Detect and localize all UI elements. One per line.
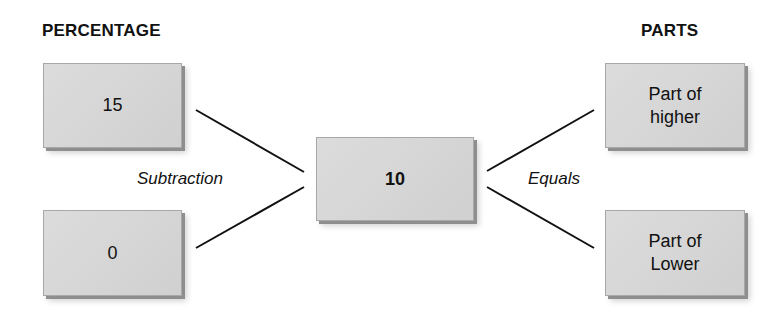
box-line: Lower: [650, 254, 699, 274]
box-percentage-low: 0: [43, 210, 182, 296]
box-value: 15: [102, 94, 122, 117]
equals-label: Equals: [528, 169, 580, 189]
subtraction-label: Subtraction: [137, 169, 223, 189]
box-value: 0: [107, 242, 117, 265]
box-part-lower: Part of Lower: [605, 210, 745, 296]
box-line: Part of: [648, 231, 701, 251]
box-line: higher: [650, 107, 700, 127]
box-difference: 10: [316, 137, 474, 221]
box-value: 10: [385, 168, 405, 191]
box-part-higher: Part of higher: [605, 63, 745, 148]
box-percentage-high: 15: [43, 63, 182, 148]
box-line: Part of: [648, 84, 701, 104]
